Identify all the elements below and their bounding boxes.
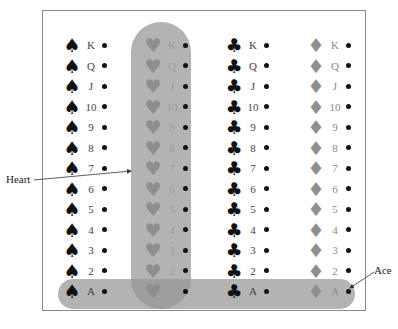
annotation-arrows [0, 0, 398, 329]
heart-arrow-icon [34, 171, 131, 180]
ace-arrow-icon [350, 272, 374, 288]
